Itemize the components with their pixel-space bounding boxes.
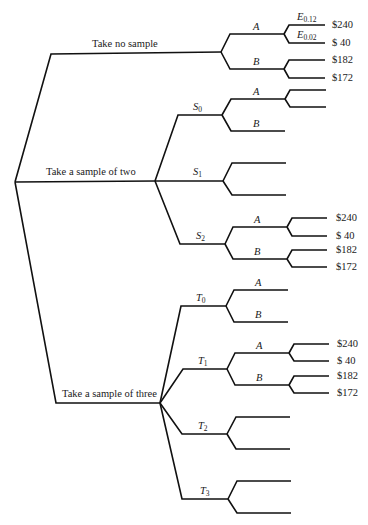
label-take-sample-of-three: Take a sample of three	[62, 388, 157, 399]
branch-take-sample-of-two: Take a sample of two	[15, 166, 155, 182]
payoff: $182	[337, 370, 358, 381]
label-outcome-t1: T1	[198, 355, 208, 368]
payoff: $240	[337, 338, 358, 349]
subtree-no-sample: A B E0.12 E0.02 $240 $ 40 $182 $172	[221, 11, 353, 83]
payoff: $172	[337, 387, 358, 398]
label-event-e002: E0.02	[296, 29, 317, 42]
subtree-sample-two: S0 A B S1 S2 A B $240 $ 40 $182 $172	[155, 86, 357, 272]
payoff: $ 40	[337, 355, 355, 366]
payoff: $172	[332, 72, 353, 83]
label-take-sample-of-two: Take a sample of two	[46, 166, 136, 177]
label-outcome-s0: S0	[193, 101, 202, 114]
label-action-a: A	[255, 340, 263, 351]
payoff: $ 40	[332, 37, 350, 48]
label-action-a: A	[252, 86, 260, 97]
label-action-b: B	[253, 56, 260, 67]
label-outcome-t2: T2	[198, 420, 208, 433]
label-outcome-s2: S2	[196, 230, 205, 243]
branch-take-no-sample: Take no sample	[15, 38, 221, 182]
label-action-a: A	[254, 277, 262, 288]
branch-take-sample-of-three: Take a sample of three	[15, 182, 160, 403]
label-take-no-sample: Take no sample	[92, 38, 158, 49]
decision-tree: Take no sample Take a sample of two Take…	[0, 0, 368, 525]
subtree-sample-three: T0 A B T1 A B $240 $ 40 $182 $172 T2 T3	[160, 277, 358, 513]
label-event-e012: E0.12	[296, 11, 317, 24]
payoff: $ 40	[336, 230, 354, 241]
label-action-a: A	[252, 21, 260, 32]
label-action-a: A	[253, 214, 261, 225]
label-action-b: B	[255, 309, 262, 320]
label-action-b: B	[254, 246, 261, 257]
label-outcome-t0: T0	[196, 292, 206, 305]
payoff: $172	[336, 261, 357, 272]
payoff: $240	[332, 19, 353, 30]
label-outcome-t3: T3	[200, 485, 210, 498]
payoff: $240	[336, 212, 357, 223]
payoff: $182	[336, 244, 357, 255]
label-action-b: B	[256, 372, 263, 383]
label-action-b: B	[253, 118, 260, 129]
payoff: $182	[332, 54, 353, 65]
label-outcome-s1: S1	[193, 166, 202, 179]
